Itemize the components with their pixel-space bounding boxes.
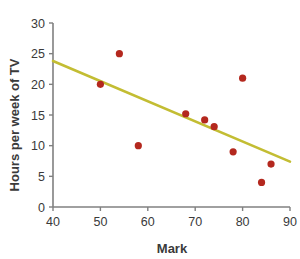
x-tick-label: 70 bbox=[188, 215, 202, 229]
x-tick-label: 50 bbox=[93, 215, 107, 229]
data-point bbox=[135, 142, 142, 149]
scatter-plot: 051015202530 405060708090 Mark Hours per… bbox=[0, 0, 300, 259]
data-point bbox=[267, 160, 274, 167]
x-tick-label: 90 bbox=[283, 215, 297, 229]
data-point bbox=[258, 179, 265, 186]
data-point bbox=[211, 123, 218, 130]
data-point bbox=[230, 148, 237, 155]
x-tick-label: 80 bbox=[236, 215, 250, 229]
data-point bbox=[116, 50, 123, 57]
y-tick-label: 10 bbox=[31, 139, 45, 153]
data-point bbox=[201, 116, 208, 123]
y-tick-label: 30 bbox=[31, 17, 45, 31]
x-tick-label: 60 bbox=[141, 215, 155, 229]
y-tick-label: 15 bbox=[31, 109, 45, 123]
data-point bbox=[97, 81, 104, 88]
y-tick-label: 5 bbox=[38, 170, 45, 184]
y-tick-label: 20 bbox=[31, 78, 45, 92]
chart-figure: 051015202530 405060708090 Mark Hours per… bbox=[0, 0, 300, 259]
y-tick-label: 25 bbox=[31, 47, 45, 61]
y-axis-title: Hours per week of TV bbox=[7, 58, 22, 191]
x-axis-title: Mark bbox=[157, 241, 188, 256]
x-tick-label: 40 bbox=[46, 215, 60, 229]
y-tick-label: 0 bbox=[38, 201, 45, 215]
data-point bbox=[182, 110, 189, 117]
data-point bbox=[239, 75, 246, 82]
